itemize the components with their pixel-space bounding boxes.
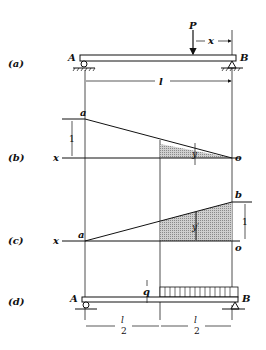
projection-lines: [85, 30, 232, 320]
label-span-l: l: [159, 76, 163, 87]
panel-label-c: (c): [8, 235, 24, 246]
label-a: a: [80, 107, 86, 118]
label-x-axis-c: x: [52, 235, 60, 246]
label-y: y: [191, 149, 198, 159]
half-den-2: 2: [194, 326, 200, 336]
label-A-d: A: [69, 293, 78, 304]
panel-b-influence-line: 1 a x o y: [52, 107, 242, 165]
label-b: b: [235, 189, 242, 200]
label-q: q: [143, 286, 150, 297]
roller-support-icon: [81, 61, 87, 67]
half-den-1: 2: [121, 326, 127, 336]
label-a-c: a: [78, 229, 84, 240]
influence-line-figure: (a) (b) (c) (d) P x A B l: [0, 0, 266, 350]
label-B-d: B: [241, 293, 250, 304]
panel-label-a: (a): [8, 58, 24, 69]
label-x-distance: x: [207, 35, 215, 46]
distributed-load: [160, 287, 238, 297]
label-A: A: [67, 52, 76, 63]
label-unit: 1: [69, 134, 75, 144]
label-P: P: [188, 20, 197, 31]
half-num-1: l: [121, 315, 124, 325]
panel-label-d: (d): [8, 296, 25, 307]
label-y-prime: y′: [191, 222, 199, 232]
half-num-2: l: [194, 315, 197, 325]
label-o-c: o: [235, 242, 242, 253]
panel-c-influence-line: 1 b a x o y′: [52, 189, 252, 253]
label-unit-c: 1: [242, 217, 248, 227]
panel-a-beam: P x A B l: [67, 20, 248, 87]
label-B: B: [239, 52, 248, 63]
diagram-canvas: (a) (b) (c) (d) P x A B l: [0, 0, 266, 350]
label-o: o: [235, 152, 242, 163]
pin-support-icon: [228, 61, 236, 68]
label-x-axis: x: [52, 152, 60, 163]
panel-label-b: (b): [8, 152, 25, 163]
